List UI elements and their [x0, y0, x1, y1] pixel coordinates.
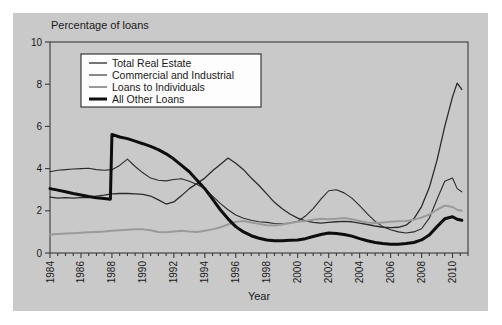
x-tick-label: 1992 — [168, 261, 179, 284]
x-tick-label: 2002 — [323, 261, 334, 284]
y-axis-tick-group: 0246810 — [31, 37, 50, 259]
y-tick-label: 0 — [36, 248, 42, 259]
chart-legend: Total Real EstateCommercial and Industri… — [81, 54, 261, 107]
loan-delinquency-line-chart: Percentage of loans 0246810 198419861988… — [13, 13, 488, 311]
legend-label-2: Commercial and Industrial — [112, 69, 234, 81]
y-tick-label: 8 — [36, 79, 42, 90]
x-axis-title: Year — [248, 290, 271, 302]
legend-label-4: All Other Loans — [112, 93, 184, 105]
x-tick-label: 2000 — [292, 261, 303, 284]
x-tick-label: 2004 — [354, 261, 365, 284]
x-axis-tick-group: 1984198619881990199219941996199820002002… — [45, 253, 459, 283]
y-tick-label: 10 — [31, 37, 43, 48]
x-tick-label: 2008 — [416, 261, 427, 284]
legend-label-1: Total Real Estate — [112, 57, 192, 69]
x-tick-label: 1990 — [137, 261, 148, 284]
series-line — [50, 206, 462, 235]
x-tick-label: 2010 — [447, 261, 458, 284]
x-tick-label: 1998 — [261, 261, 272, 284]
y-axis-title: Percentage of loans — [51, 19, 149, 31]
x-tick-label: 1984 — [45, 261, 56, 284]
x-tick-label: 1986 — [75, 261, 86, 284]
y-tick-label: 4 — [36, 163, 42, 174]
x-tick-label: 1994 — [199, 261, 210, 284]
figure-canvas: Percentage of loans 0246810 198419861988… — [13, 13, 488, 311]
y-tick-label: 2 — [36, 205, 42, 216]
x-tick-label: 1988 — [106, 261, 117, 284]
x-tick-label: 1996 — [230, 261, 241, 284]
series-line — [50, 134, 462, 244]
legend-label-3: Loans to Individuals — [112, 81, 205, 93]
y-tick-label: 6 — [36, 121, 42, 132]
x-tick-label: 2006 — [385, 261, 396, 284]
